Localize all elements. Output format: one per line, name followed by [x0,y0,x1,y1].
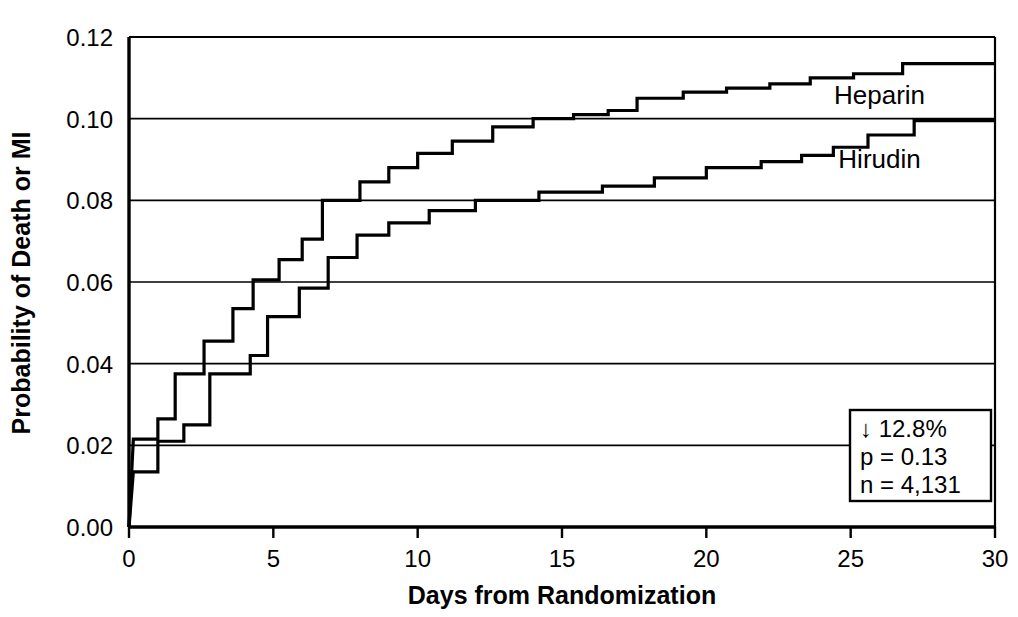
y-tick-label-0.10: 0.10 [66,106,113,133]
chart-figure: 051015202530 0.000.020.040.060.080.100.1… [0,0,1018,617]
y-tick-label-0.00: 0.00 [66,514,113,541]
y-tick-label-0.02: 0.02 [66,432,113,459]
y-tick-label-0.08: 0.08 [66,187,113,214]
annotation-p-value: p = 0.13 [860,443,947,470]
x-tick-label-20: 20 [693,545,720,572]
statistics-annotation-box: ↓ 12.8%p = 0.13n = 4,131 [850,410,991,501]
y-tick-label-0.06: 0.06 [66,269,113,296]
x-axis-title: Days from Randomization [408,581,716,609]
y-axis-title: Probability of Death or MI [7,132,35,435]
annotation-sample-size: n = 4,131 [860,471,961,498]
x-tick-label-10: 10 [404,545,431,572]
series-label-hirudin: Hirudin [838,144,920,174]
y-tick-label-0.12: 0.12 [66,24,113,51]
x-tick-label-25: 25 [837,545,864,572]
x-tick-label-15: 15 [549,545,576,572]
kaplan-meier-chart: 051015202530 0.000.020.040.060.080.100.1… [0,0,1018,617]
x-tick-label-5: 5 [267,545,280,572]
y-tick-label-0.04: 0.04 [66,351,113,378]
x-tick-label-30: 30 [982,545,1009,572]
series-label-heparin: Heparin [834,80,925,110]
annotation-reduction: ↓ 12.8% [860,415,947,442]
x-tick-label-0: 0 [122,545,135,572]
